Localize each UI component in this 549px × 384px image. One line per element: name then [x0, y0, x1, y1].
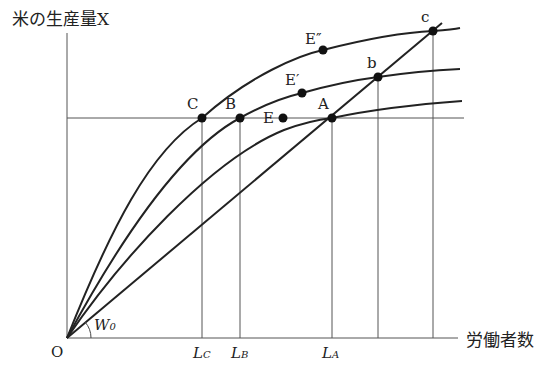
point-B [236, 114, 245, 123]
production-curve-bottom [67, 101, 462, 338]
production-diagram: 米の生産量X 労働者数 O W0 C B E A E′ E″ b c LC LB… [0, 0, 549, 384]
tick-LC-sub: C [203, 349, 211, 360]
label-A: A [318, 95, 329, 113]
tick-LB-sub: B [241, 349, 248, 360]
label-c: c [421, 8, 429, 26]
wage-line [67, 23, 442, 338]
y-axis-label: 米の生産量X [12, 5, 109, 30]
tick-LC-main: L [193, 344, 203, 362]
tick-LA-sub: A [332, 349, 339, 360]
point-b [374, 73, 383, 82]
tick-LA-main: L [322, 344, 332, 362]
origin-label: O [51, 343, 63, 361]
point-E-prime [298, 89, 307, 98]
angle-label-W0: W0 [94, 316, 116, 334]
tick-label-LB: LB [231, 344, 248, 362]
tick-label-LA: LA [322, 344, 339, 362]
point-C [198, 114, 207, 123]
point-c [429, 27, 438, 36]
point-E [279, 114, 288, 123]
label-b: b [367, 54, 377, 72]
label-C: C [187, 95, 198, 113]
x-axis-label: 労働者数 [466, 326, 534, 351]
point-A [328, 114, 337, 123]
label-E-double-prime: E″ [305, 30, 322, 48]
label-E: E [263, 109, 274, 127]
label-B: B [225, 95, 236, 113]
angle-label-sub: 0 [109, 321, 115, 332]
tick-LB-main: L [231, 344, 241, 362]
label-E-prime: E′ [285, 71, 299, 89]
tick-label-LC: LC [193, 344, 211, 362]
angle-label-main: W [94, 316, 109, 334]
angle-arc-W0 [85, 322, 91, 338]
